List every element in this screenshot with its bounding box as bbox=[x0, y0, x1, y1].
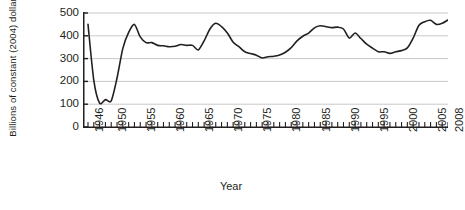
x-tick-label: 1955 bbox=[145, 92, 157, 132]
x-tick-label: 1965 bbox=[203, 92, 215, 132]
x-axis-title: Year bbox=[0, 180, 462, 192]
x-tick-label: 2005 bbox=[436, 92, 448, 132]
x-tick-label: 1985 bbox=[320, 92, 332, 132]
x-tick-label: 2008 bbox=[453, 92, 465, 132]
x-tick-label: 1946 bbox=[93, 92, 105, 132]
x-tick-label: 1995 bbox=[378, 92, 390, 132]
x-tick-label: 1970 bbox=[232, 92, 244, 132]
x-tick-label: 1975 bbox=[261, 92, 273, 132]
x-tick-label: 1990 bbox=[349, 92, 361, 132]
x-tick-label: 1980 bbox=[290, 92, 302, 132]
x-tick-label: 1960 bbox=[174, 92, 186, 132]
x-tick-label: 2000 bbox=[407, 92, 419, 132]
x-tick-label: 1950 bbox=[116, 92, 128, 132]
